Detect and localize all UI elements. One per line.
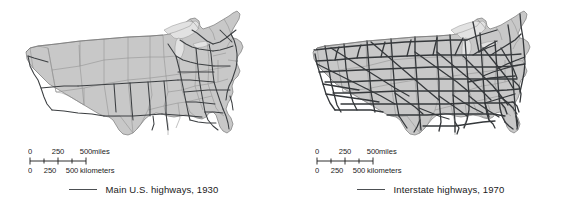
scale-miles-tick-250: 250 [339, 147, 352, 156]
scale-bar-1930: 0 250 500 miles 0 250 500 kilometers [28, 146, 148, 180]
scale-km-tick-500: 500 [66, 166, 79, 175]
scale-miles-tick-500: 500 [367, 147, 380, 156]
scale-miles-unit: miles [379, 147, 397, 156]
highway-segment [152, 116, 154, 130]
highway-maps-figure: 0 250 500 miles 0 250 500 kilometers [0, 0, 574, 199]
scale-bar-1970: 0 250 500 miles 0 250 500 kilometers [315, 146, 435, 180]
legend-label-1970: Interstate highways, 1970 [394, 184, 505, 195]
scale-miles-tick-0: 0 [28, 147, 32, 156]
legend-1930: Main U.S. highways, 1930 [0, 180, 287, 199]
highway-segment [230, 96, 233, 110]
scale-miles-tick-250: 250 [52, 147, 65, 156]
legend-label-1930: Main U.S. highways, 1930 [106, 184, 219, 195]
scale-miles-unit: miles [92, 147, 110, 156]
scale-km-unit: kilometers [80, 166, 115, 175]
legend-line-swatch-1930 [69, 189, 97, 190]
scale-bar-ruler [317, 158, 373, 165]
highway-segment [190, 120, 216, 123]
map-panel-1930: 0 250 500 miles 0 250 500 kilometers [0, 0, 287, 199]
highway-segment [423, 121, 495, 126]
scale-km-tick-0: 0 [315, 166, 319, 175]
scale-km-unit: kilometers [367, 166, 402, 175]
scale-km-tick-0: 0 [28, 166, 32, 175]
scale-miles-tick-500: 500 [80, 147, 93, 156]
legend-line-swatch-1970 [357, 189, 385, 190]
scale-bar-ruler [30, 158, 86, 165]
scale-miles-tick-0: 0 [315, 147, 319, 156]
scale-km-tick-250: 250 [331, 166, 344, 175]
scale-km-tick-500: 500 [353, 166, 366, 175]
highway-segment [335, 110, 383, 112]
scale-km-tick-250: 250 [44, 166, 57, 175]
legend-1970: Interstate highways, 1970 [287, 180, 574, 199]
map-panel-1970: 0 250 500 miles 0 250 500 kilometers [287, 0, 574, 199]
